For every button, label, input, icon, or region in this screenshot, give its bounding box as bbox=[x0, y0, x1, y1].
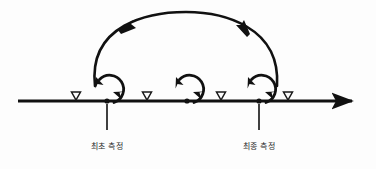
marker-4 bbox=[284, 92, 293, 100]
diagram-canvas: 최초 측정 최종 측정 bbox=[0, 0, 376, 169]
marker-2 bbox=[143, 92, 152, 100]
loop-3 bbox=[248, 75, 277, 102]
marker-3 bbox=[217, 92, 226, 100]
marker-1 bbox=[72, 92, 81, 100]
label-final-measurement: 최종 측정 bbox=[243, 140, 275, 151]
loop-1 bbox=[96, 75, 125, 102]
cycle-timeline-figure bbox=[0, 0, 376, 169]
node-middle bbox=[184, 98, 189, 103]
node-first-measurement bbox=[104, 98, 109, 103]
label-first-measurement: 최초 측정 bbox=[91, 140, 123, 151]
loop-2 bbox=[176, 75, 205, 102]
node-final-measurement bbox=[256, 98, 261, 103]
